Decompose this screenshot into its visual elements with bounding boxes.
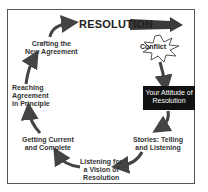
diagram-title: RESOLUTION: [79, 18, 153, 30]
step-line: Resolution: [80, 174, 122, 182]
step-crafting: Crafting the New Agreement: [25, 40, 78, 56]
step-line: Stories: Telling: [133, 136, 183, 144]
step-reaching: Reaching Agreement in Principle: [12, 84, 50, 108]
step-getting-current: Getting Current and Complete: [22, 136, 74, 152]
step-stories: Stories: Telling and Listening: [133, 136, 183, 152]
step-line: in Principle: [12, 100, 50, 108]
attitude-box: Your Attitude of Resolution: [143, 86, 195, 110]
step-line: New Agreement: [25, 48, 78, 56]
step-line: Agreement: [12, 92, 50, 100]
step-line: Crafting the: [25, 40, 78, 48]
step-line: and Complete: [22, 144, 74, 152]
step-line: and Listening: [133, 144, 183, 152]
step-listening: Listening for a Vision of Resolution: [80, 158, 122, 182]
step-line: Reaching: [12, 84, 50, 92]
conflict-label: Conflict: [140, 43, 166, 50]
step-line: Listening for: [80, 158, 122, 166]
step-line: Getting Current: [22, 136, 74, 144]
step-line: a Vision of: [80, 166, 122, 174]
